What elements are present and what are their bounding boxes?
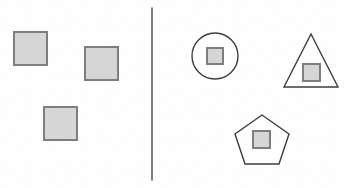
- inner-square-pentagon: [253, 131, 270, 148]
- inner-square-triangle: [303, 64, 320, 81]
- square-1[interactable]: [14, 32, 47, 65]
- inner-square-circle: [207, 48, 223, 64]
- square-2[interactable]: [85, 47, 118, 80]
- shape-comparison-figure: [0, 0, 350, 188]
- figure-root: [0, 0, 350, 188]
- figure-background: [0, 0, 350, 188]
- square-3[interactable]: [44, 107, 77, 140]
